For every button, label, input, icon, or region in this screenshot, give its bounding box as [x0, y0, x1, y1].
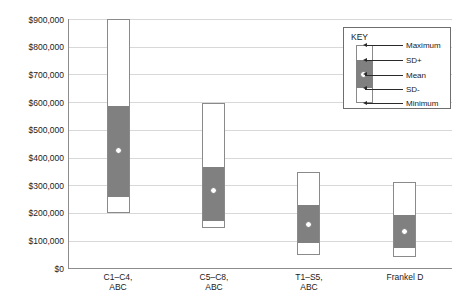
y-tick-label: $800,000: [0, 42, 64, 52]
legend-arrow-icon: [363, 43, 367, 47]
x-axis-category-label: C1–C4, ABC: [78, 272, 158, 292]
x-axis-category-label: T1–S5, ABC: [269, 272, 349, 292]
y-axis-line: [68, 19, 69, 269]
legend-leader-line: [365, 45, 403, 46]
legend-label-maximum: Maximum: [406, 41, 441, 50]
legend-leader-line: [365, 75, 403, 76]
legend-arrow-icon: [363, 101, 367, 105]
y-tick-label: $700,000: [0, 70, 64, 80]
legend-leader-line: [365, 89, 403, 90]
x-axis-category-label: C5–C8, ABC: [174, 272, 254, 292]
y-tick-label: $900,000: [0, 15, 64, 25]
y-tick-label: $500,000: [0, 125, 64, 135]
legend-arrow-icon: [363, 72, 367, 76]
chart-root: $900,000 $800,000 $700,000 $600,000 $500…: [0, 0, 462, 307]
legend-label-sd-plus: SD+: [406, 56, 422, 65]
mean-marker: [401, 228, 408, 235]
legend-leader-line: [365, 103, 403, 104]
mean-marker: [115, 147, 122, 154]
y-tick-label: $200,000: [0, 208, 64, 218]
mean-marker: [210, 187, 217, 194]
legend-label-mean: Mean: [406, 70, 426, 79]
legend-arrow-icon: [363, 86, 367, 90]
legend-title: KEY: [351, 32, 368, 42]
y-tick-label: $0: [0, 264, 64, 274]
legend-leader-line: [365, 60, 403, 61]
box-sd-band: [203, 167, 224, 221]
legend-label-minimum: Minimum: [406, 99, 438, 108]
legend-arrow-icon: [363, 58, 367, 62]
x-axis-line: [68, 268, 452, 269]
chart-legend: KEY Maximum SD+ Mean SD- Minimum: [343, 27, 451, 109]
y-tick-label: $300,000: [0, 181, 64, 191]
x-axis-category-label: Frankel D: [365, 272, 445, 282]
y-tick-label: $100,000: [0, 236, 64, 246]
y-tick-label: $600,000: [0, 98, 64, 108]
mean-marker: [305, 221, 312, 228]
legend-label-sd-minus: SD-: [406, 84, 420, 93]
y-tick-label: $400,000: [0, 153, 64, 163]
